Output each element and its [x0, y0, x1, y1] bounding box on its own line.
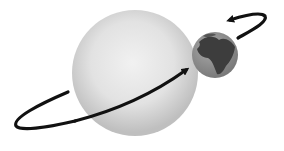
orbit-diagram: A large pale sphere with an Earth-like p… [0, 0, 284, 151]
diagram-canvas [0, 0, 284, 151]
earth-planet [192, 32, 238, 78]
spin-arrow [230, 14, 265, 38]
orbit-arrow-back [16, 92, 75, 128]
